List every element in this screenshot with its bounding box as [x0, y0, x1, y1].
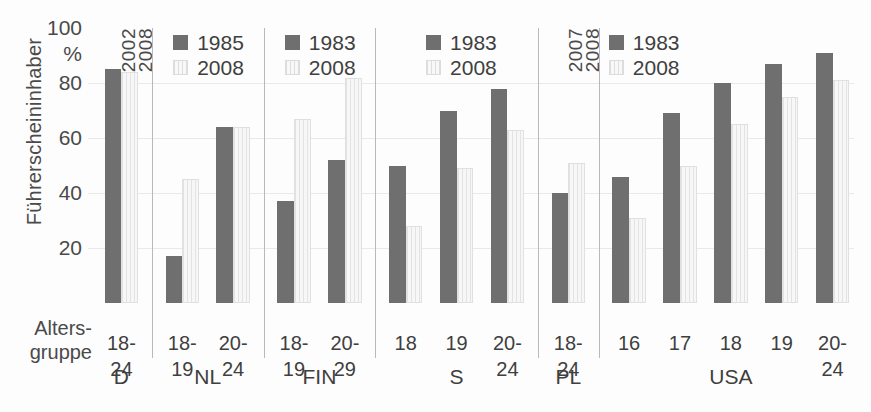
legend-label-old: 1983 — [450, 30, 497, 55]
legend-label-new: 2008 — [450, 55, 497, 80]
legend-label-old: 1983 — [633, 30, 680, 55]
bar-s-19-old — [440, 111, 457, 304]
bar-usa-20-24-old — [816, 53, 833, 303]
bar-d-18-24-new — [121, 72, 138, 303]
group-separator — [375, 296, 376, 358]
country-label-s: S — [380, 362, 533, 392]
legend-label-new: 2008 — [633, 55, 680, 80]
y-axis-tick-label: 80 — [34, 72, 82, 93]
age-group-label: 16 — [604, 330, 655, 356]
bar-nl-20-24-new — [233, 127, 250, 303]
plot-area: 2002200819852008198320081983200820072008… — [96, 28, 858, 303]
bar-fin-20-29-new — [345, 78, 362, 304]
legend-row-old: 1983 — [426, 30, 497, 55]
legend-row-old: 1983 — [285, 30, 356, 55]
legend-swatch-new — [426, 60, 441, 75]
country-label-pl: PL — [543, 362, 594, 392]
x-axis-title: Alters- gruppe — [8, 316, 92, 364]
y-axis-tick-label: 100 — [34, 17, 82, 38]
bar-usa-19-new — [782, 97, 799, 303]
bar-usa-20-24-new — [833, 80, 850, 303]
country-label-d: D — [96, 362, 147, 392]
legend-label-new: 2008 — [197, 55, 244, 80]
bar-s-18-old — [389, 166, 406, 304]
bar-usa-17-old — [663, 113, 680, 303]
group-separator — [599, 28, 600, 303]
legend-row-old: 1985 — [173, 30, 244, 55]
bar-usa-17-new — [680, 166, 697, 304]
legend-nl: 19852008 — [173, 30, 244, 80]
legend-label-old: 1983 — [309, 30, 356, 55]
age-group-label: 19 — [431, 330, 482, 356]
y-axis-unit: % — [34, 42, 82, 66]
legend-swatch-new — [609, 60, 624, 75]
bar-usa-16-new — [629, 218, 646, 303]
group-separator — [264, 296, 265, 358]
legend-swatch-old — [173, 35, 188, 50]
bar-s-19-new — [457, 168, 474, 303]
bar-usa-19-old — [765, 64, 782, 303]
legend-row-new: 2008 — [173, 55, 244, 80]
legend-swatch-old — [426, 35, 441, 50]
legend-swatch-new — [173, 60, 188, 75]
bar-fin-18-19-old — [277, 201, 294, 303]
group-separator — [152, 296, 153, 358]
age-group-label: 18 — [705, 330, 756, 356]
country-label-fin: FIN — [269, 362, 371, 392]
bar-usa-16-old — [612, 177, 629, 304]
y-axis-tick-label: 20 — [34, 237, 82, 258]
group-separator — [152, 28, 153, 303]
bar-nl-18-19-new — [182, 179, 199, 303]
x-axis-title-line1: Alters- — [8, 316, 92, 340]
bar-fin-20-29-old — [328, 160, 345, 303]
bar-nl-20-24-old — [216, 127, 233, 303]
legend-row-old: 1983 — [609, 30, 680, 55]
age-group-label: 19 — [756, 330, 807, 356]
group-separator — [375, 28, 376, 303]
bar-usa-18-old — [714, 83, 731, 303]
y-axis-tick-label: 40 — [34, 182, 82, 203]
legend-label-old: 1985 — [197, 30, 244, 55]
legend-row-new: 2008 — [609, 55, 680, 80]
inline-year-label-new: 2008 — [135, 28, 157, 72]
legend-fin: 19832008 — [285, 30, 356, 80]
legend-swatch-new — [285, 60, 300, 75]
legend-row-new: 2008 — [285, 55, 356, 80]
legend-swatch-old — [609, 35, 624, 50]
age-group-label: 17 — [655, 330, 706, 356]
age-group-row: 18-2418-1920-2418-1920-29181920-2418-241… — [96, 330, 858, 356]
bar-s-18-new — [406, 226, 423, 303]
bar-fin-18-19-new — [294, 119, 311, 303]
bar-pl-18-24-new — [568, 163, 585, 303]
age-group-label: 18 — [380, 330, 431, 356]
legend-usa: 19832008 — [609, 30, 680, 80]
legend-swatch-old — [285, 35, 300, 50]
legend-s: 19832008 — [426, 30, 497, 80]
country-label-usa: USA — [604, 362, 858, 392]
group-separator — [538, 296, 539, 358]
bar-s-20-24-old — [491, 89, 508, 304]
legend-label-new: 2008 — [309, 55, 356, 80]
inline-year-label-new: 2008 — [582, 28, 604, 72]
bar-pl-18-24-old — [552, 193, 569, 303]
country-row: DNLFINSPLUSA — [96, 362, 858, 392]
y-axis-tick-label: 60 — [34, 127, 82, 148]
bar-s-20-24-new — [507, 130, 524, 303]
group-separator — [264, 28, 265, 303]
group-separator — [599, 296, 600, 358]
group-separator — [538, 28, 539, 303]
legend-row-new: 2008 — [426, 55, 497, 80]
country-label-nl: NL — [157, 362, 259, 392]
chart-page: Führerscheininhaber 10080604020% 2002200… — [0, 0, 871, 412]
x-axis-title-line2: gruppe — [8, 340, 92, 364]
bar-d-18-24-old — [105, 69, 122, 303]
bar-usa-18-new — [731, 124, 748, 303]
bar-nl-18-19-old — [166, 256, 183, 303]
